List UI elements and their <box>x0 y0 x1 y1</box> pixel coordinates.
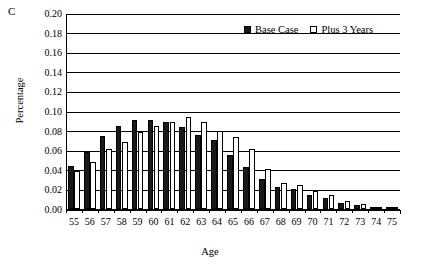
y-tick-label: 0.12 <box>28 87 62 97</box>
x-tick-mark <box>130 209 131 213</box>
y-tick-label: 0.04 <box>28 166 62 176</box>
x-tick-label: 75 <box>387 216 397 227</box>
x-tick-mark <box>161 209 162 213</box>
x-tick-mark <box>289 209 290 213</box>
x-tick-label: 73 <box>355 216 365 227</box>
panel-label: C <box>8 6 15 17</box>
x-tick-mark <box>114 209 115 213</box>
x-tick-label: 59 <box>133 216 143 227</box>
x-tick-label: 63 <box>196 216 206 227</box>
bar-base-case-75 <box>386 207 392 209</box>
x-axis-title: Age <box>40 246 380 257</box>
x-tick-label: 55 <box>69 216 79 227</box>
x-tick-label: 74 <box>371 216 381 227</box>
x-tick-label: 62 <box>180 216 190 227</box>
legend-label-base-case: Base Case <box>255 24 298 35</box>
bar-plus-3-years-56 <box>90 162 96 209</box>
x-tick-mark <box>193 209 194 213</box>
bar-plus-3-years-70 <box>313 191 319 209</box>
gridline <box>66 112 400 113</box>
x-tick-mark <box>66 209 67 213</box>
bar-plus-3-years-69 <box>297 185 303 209</box>
x-axis-line <box>66 209 400 210</box>
bar-plus-3-years-58 <box>122 142 128 209</box>
x-tick-mark <box>225 209 226 213</box>
y-axis-tick-labels: 0.000.020.040.060.080.100.120.140.160.18… <box>22 14 62 210</box>
bar-base-case-64 <box>211 140 217 209</box>
x-tick-label: 65 <box>228 216 238 227</box>
legend-entry-plus-3-years: Plus 3 Years <box>310 24 373 35</box>
bar-plus-3-years-66 <box>249 149 255 209</box>
gridline <box>66 92 400 93</box>
x-tick-mark <box>98 209 99 213</box>
x-tick-mark <box>241 209 242 213</box>
bar-plus-3-years-61 <box>170 122 176 209</box>
x-tick-mark <box>320 209 321 213</box>
bar-base-case-62 <box>179 127 185 209</box>
x-tick-mark <box>336 209 337 213</box>
gridline <box>66 72 400 73</box>
x-tick-mark <box>400 210 401 214</box>
bar-base-case-74 <box>370 207 376 209</box>
x-tick-mark <box>273 209 274 213</box>
bar-plus-3-years-67 <box>265 169 271 209</box>
bar-plus-3-years-73 <box>361 204 367 209</box>
x-tick-mark <box>384 209 385 213</box>
bar-base-case-69 <box>291 189 297 209</box>
x-tick-label: 68 <box>276 216 286 227</box>
x-tick-mark <box>257 209 258 213</box>
bar-plus-3-years-71 <box>329 195 335 209</box>
bar-plus-3-years-68 <box>281 183 287 209</box>
legend: Base Case Plus 3 Years <box>244 24 373 35</box>
figure: C Percentage Age 0.000.020.040.060.080.1… <box>0 0 422 269</box>
y-tick-label: 0.02 <box>28 185 62 195</box>
y-tick-label: 0.14 <box>28 68 62 78</box>
y-tick-label: 0.20 <box>28 9 62 19</box>
bar-base-case-58 <box>116 126 122 209</box>
bar-base-case-73 <box>354 205 360 209</box>
bar-plus-3-years-55 <box>74 171 80 209</box>
x-tick-label: 70 <box>308 216 318 227</box>
bar-plus-3-years-62 <box>186 117 192 209</box>
legend-label-plus-3-years: Plus 3 Years <box>321 24 373 35</box>
x-tick-mark <box>368 209 369 213</box>
bar-plus-3-years-57 <box>106 149 112 209</box>
bar-base-case-55 <box>68 166 74 209</box>
legend-swatch-filled-square-icon <box>244 26 251 33</box>
legend-entry-base-case: Base Case <box>244 24 298 35</box>
y-tick-label: 0.08 <box>28 127 62 137</box>
bar-plus-3-years-72 <box>345 201 351 209</box>
bar-plus-3-years-65 <box>233 137 239 209</box>
x-tick-mark <box>177 209 178 213</box>
x-tick-label: 64 <box>212 216 222 227</box>
bar-base-case-61 <box>163 122 169 209</box>
bar-base-case-67 <box>259 179 265 209</box>
y-axis-line <box>66 14 67 210</box>
x-tick-mark <box>352 209 353 213</box>
x-axis-tick-labels: 5556575859606162636465666768697071727374… <box>66 216 400 230</box>
bar-base-case-59 <box>132 120 138 209</box>
bar-base-case-70 <box>307 195 313 209</box>
plot-area <box>66 14 400 210</box>
x-tick-label: 67 <box>260 216 270 227</box>
x-tick-label: 72 <box>339 216 349 227</box>
x-tick-mark <box>209 209 210 213</box>
gridline <box>66 53 400 54</box>
gridline <box>66 14 400 15</box>
x-tick-label: 57 <box>101 216 111 227</box>
x-tick-mark <box>146 209 147 213</box>
bar-plus-3-years-64 <box>217 131 223 209</box>
bar-plus-3-years-75 <box>392 207 398 209</box>
x-tick-label: 58 <box>117 216 127 227</box>
y-tick-label: 0.18 <box>28 29 62 39</box>
x-tick-label: 61 <box>164 216 174 227</box>
bar-base-case-66 <box>243 167 249 209</box>
x-tick-mark <box>82 209 83 213</box>
bar-plus-3-years-74 <box>376 207 382 209</box>
x-tick-label: 66 <box>244 216 254 227</box>
bar-plus-3-years-63 <box>201 122 207 209</box>
bar-plus-3-years-59 <box>138 132 144 209</box>
bar-base-case-71 <box>323 198 329 209</box>
x-tick-label: 71 <box>323 216 333 227</box>
bar-base-case-72 <box>338 203 344 209</box>
